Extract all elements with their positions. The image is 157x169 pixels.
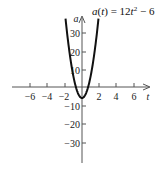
y-ticks xyxy=(82,33,86,143)
chart: −6 −4 −2 2 4 6 30 20 10 −10 −20 −30 t a … xyxy=(0,0,157,169)
y-tick-label: −20 xyxy=(64,119,80,130)
chart-title: a(t) = 12t2 − 6 xyxy=(92,5,155,18)
x-tick-label: −4 xyxy=(42,91,53,102)
x-tick-label: 6 xyxy=(132,91,137,102)
x-tick-label: −6 xyxy=(25,91,36,102)
x-tick-label: 2 xyxy=(97,91,102,102)
y-tick-label: −30 xyxy=(64,138,80,149)
x-tick-label: 4 xyxy=(114,91,119,102)
y-axis-label: a xyxy=(74,13,79,24)
y-tick-label: 20 xyxy=(70,47,80,58)
x-axis-label: t xyxy=(147,91,150,102)
y-tick-label: −10 xyxy=(64,101,80,112)
y-tick-label: 30 xyxy=(70,28,80,39)
